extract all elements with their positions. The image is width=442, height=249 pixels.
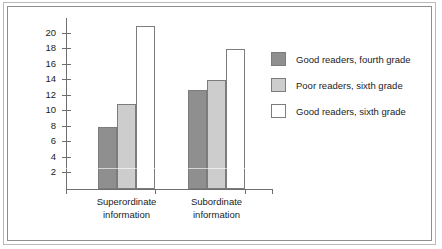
y-tick-label: 18 <box>45 41 56 54</box>
bar <box>188 90 207 189</box>
y-tick-label: 2 <box>51 165 56 178</box>
category-label-line: information <box>167 209 267 222</box>
y-tick-label: 14 <box>45 72 56 85</box>
x-tick <box>155 189 156 194</box>
bar-series-group <box>66 18 272 189</box>
y-tick-label: 20 <box>45 26 56 39</box>
y-tick-label: 8 <box>51 119 56 132</box>
bar <box>207 80 226 189</box>
legend-swatch <box>271 78 286 92</box>
y-tick-label: 6 <box>51 134 56 147</box>
x-axis-category-label: Subordinateinformation <box>167 196 267 221</box>
bar <box>98 127 117 189</box>
x-tick <box>272 189 273 194</box>
y-tick-label: 12 <box>45 88 56 101</box>
legend-swatch <box>271 104 286 118</box>
category-label-line: Subordinate <box>167 196 267 209</box>
legend-item: Poor readers, sixth grade <box>271 72 421 98</box>
x-axis-line <box>66 189 272 190</box>
y-tick-label: 10 <box>45 103 56 116</box>
legend-label: Good readers, sixth grade <box>296 106 406 117</box>
x-axis-category-label: Superordinateinformation <box>77 196 177 221</box>
legend-label: Good readers, fourth grade <box>296 54 411 65</box>
y-tick-label: 4 <box>51 150 56 163</box>
x-tick <box>245 189 246 194</box>
x-tick <box>66 189 67 194</box>
figure-container: Percentage of idea units recalled 246810… <box>0 0 442 249</box>
legend-label: Poor readers, sixth grade <box>296 80 403 91</box>
y-tick-label: 16 <box>45 57 56 70</box>
bar <box>117 104 136 190</box>
legend-item: Good readers, sixth grade <box>271 98 421 124</box>
category-label-line: information <box>77 209 177 222</box>
legend-swatch <box>271 52 286 66</box>
bar <box>136 26 155 189</box>
category-label-line: Superordinate <box>77 196 177 209</box>
legend-item: Good readers, fourth grade <box>271 46 421 72</box>
bar <box>226 49 245 189</box>
plot-area: 2468101214161820 <box>66 18 272 190</box>
chart-legend: Good readers, fourth gradePoor readers, … <box>271 46 421 124</box>
